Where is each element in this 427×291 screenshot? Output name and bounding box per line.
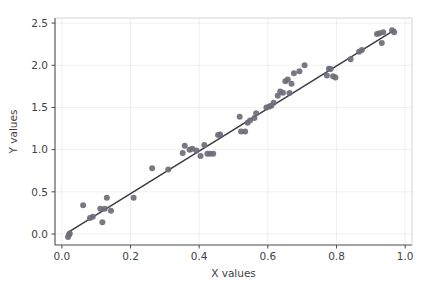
- data-point-28: [242, 129, 248, 135]
- data-point-10: [108, 208, 114, 214]
- data-point-51: [332, 74, 338, 80]
- data-point-43: [289, 81, 295, 87]
- data-point-2: [67, 231, 73, 237]
- ytick-label-4: 2.0: [31, 59, 48, 71]
- data-point-14: [180, 150, 186, 156]
- xtick-label-1: 0.2: [122, 250, 139, 262]
- data-point-42: [286, 90, 292, 96]
- data-point-57: [379, 40, 385, 46]
- xtick-label-3: 0.6: [259, 250, 276, 262]
- data-point-8: [102, 206, 108, 212]
- data-point-20: [201, 142, 207, 148]
- data-point-52: [348, 56, 354, 62]
- y-axis-title: Y values: [7, 110, 19, 155]
- ytick-label-5: 2.5: [31, 17, 48, 29]
- ytick-label-1: 0.5: [31, 186, 48, 198]
- xtick-label-2: 0.4: [191, 250, 208, 262]
- data-point-19: [198, 153, 204, 159]
- ytick-label-2: 1.0: [31, 143, 48, 155]
- data-point-7: [99, 219, 105, 225]
- data-point-58: [380, 29, 386, 35]
- data-point-26: [237, 114, 243, 120]
- data-point-39: [280, 90, 286, 96]
- data-point-44: [291, 70, 297, 76]
- data-point-25: [217, 131, 223, 137]
- data-point-15: [182, 143, 188, 149]
- xtick-label-0: 0.0: [54, 250, 71, 262]
- data-point-5: [90, 214, 96, 220]
- data-point-12: [149, 165, 155, 171]
- data-point-3: [80, 202, 86, 208]
- chart-figure: 0.00.20.40.60.81.00.00.51.01.52.02.5X va…: [0, 0, 427, 291]
- xtick-label-4: 0.8: [328, 250, 345, 262]
- data-point-32: [253, 110, 259, 116]
- data-point-45: [296, 68, 302, 74]
- x-axis-title: X values: [211, 267, 256, 279]
- data-point-23: [210, 151, 216, 157]
- data-point-54: [359, 47, 365, 53]
- data-point-9: [104, 195, 110, 201]
- ytick-label-3: 1.5: [31, 101, 48, 113]
- xtick-label-5: 1.0: [397, 250, 414, 262]
- data-point-60: [391, 29, 397, 35]
- data-point-18: [193, 147, 199, 153]
- data-point-49: [328, 66, 334, 72]
- ytick-label-0: 0.0: [31, 228, 48, 240]
- scatter-plot: 0.00.20.40.60.81.00.00.51.01.52.02.5X va…: [0, 0, 427, 291]
- data-point-46: [302, 62, 308, 68]
- data-point-11: [131, 195, 137, 201]
- data-point-13: [165, 166, 171, 172]
- data-point-47: [324, 72, 330, 78]
- data-point-36: [271, 100, 277, 106]
